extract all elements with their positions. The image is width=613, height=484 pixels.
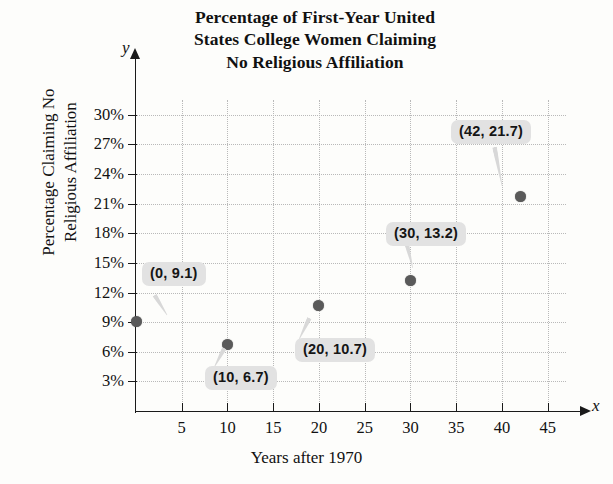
y-axis-tick (128, 174, 137, 175)
gridline-vertical (365, 100, 366, 412)
chart-title: Percentage of First-Year United States C… (150, 6, 480, 73)
y-axis-tick (128, 381, 137, 382)
data-point-callout: (30, 13.2) (386, 222, 466, 246)
y-axis-letter: y (122, 38, 130, 58)
x-axis-tick (548, 403, 549, 412)
y-axis-tick (128, 115, 137, 116)
gridline-vertical (319, 100, 320, 412)
x-axis-label: Years after 1970 (0, 448, 613, 468)
gridline-vertical (456, 100, 457, 412)
gridline-vertical (182, 100, 183, 412)
x-axis-arrow-icon (580, 406, 591, 416)
y-axis-tick (128, 293, 137, 294)
x-axis-tick-label: 5 (162, 418, 202, 438)
y-axis-tick (128, 204, 137, 205)
x-axis-tick (365, 403, 366, 412)
x-axis-tick (182, 403, 183, 412)
gridline-vertical (548, 100, 549, 412)
y-axis-tick-label: 18% (76, 223, 124, 243)
x-axis-tick (502, 403, 503, 412)
data-point-callout: (10, 6.7) (205, 366, 277, 390)
x-axis-tick-label: 25 (345, 418, 385, 438)
gridline-vertical (273, 100, 274, 412)
y-axis-tick-label: 27% (76, 134, 124, 154)
y-axis-tick-label: 21% (76, 194, 124, 214)
x-axis-tick (227, 403, 228, 412)
x-axis-tick (273, 403, 274, 412)
x-axis-line (136, 411, 586, 412)
x-axis-tick-label: 30 (390, 418, 430, 438)
x-axis-letter: x (592, 396, 600, 416)
data-point (131, 316, 142, 327)
y-axis-tick-label: 3% (76, 371, 124, 391)
y-axis-label-line-1: Percentage Claiming No (38, 27, 60, 317)
x-axis-tick (319, 403, 320, 412)
x-axis-tick-label: 20 (299, 418, 339, 438)
x-axis-tick-label: 45 (528, 418, 568, 438)
data-point-callout: (42, 21.7) (451, 120, 531, 144)
x-axis-tick-label: 35 (436, 418, 476, 438)
x-axis-tick (410, 403, 411, 412)
plot-area (136, 100, 566, 412)
chart-title-line-3: No Religious Affiliation (150, 51, 480, 73)
gridline-vertical (502, 100, 503, 412)
y-axis-tick-label: 12% (76, 283, 124, 303)
y-axis-line (135, 56, 136, 413)
y-axis-tick (128, 263, 137, 264)
data-point-callout: (20, 10.7) (295, 338, 375, 362)
data-point-callout: (0, 9.1) (142, 262, 206, 286)
y-axis-tick-label: 15% (76, 253, 124, 273)
x-axis-tick-label: 10 (207, 418, 247, 438)
y-axis-tick (128, 352, 137, 353)
y-axis-tick (128, 233, 137, 234)
y-axis-tick-label: 9% (76, 312, 124, 332)
chart-root: Percentage of First-Year United States C… (0, 0, 613, 484)
y-axis-tick-label: 30% (76, 105, 124, 125)
y-axis-tick-label: 6% (76, 342, 124, 362)
x-axis-tick-label: 15 (253, 418, 293, 438)
y-axis-tick-label: 24% (76, 164, 124, 184)
y-axis-tick (128, 144, 137, 145)
chart-title-line-2: States College Women Claiming (150, 28, 480, 50)
x-axis-tick-label: 40 (482, 418, 522, 438)
data-point (515, 191, 526, 202)
x-axis-tick (456, 403, 457, 412)
y-axis-arrow-icon (130, 48, 140, 59)
chart-title-line-1: Percentage of First-Year United (150, 6, 480, 28)
